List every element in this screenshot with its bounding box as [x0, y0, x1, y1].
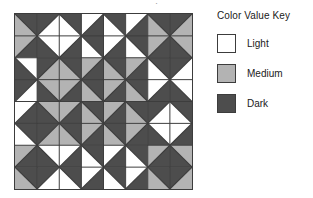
legend-item-dark: Dark	[217, 94, 313, 113]
quilt-grid	[14, 13, 193, 190]
quilt-pattern-figure: · Color Value Key Light Medium Dark	[0, 0, 313, 198]
quilt-svg-canvas	[15, 14, 192, 189]
legend-label-dark: Dark	[247, 98, 268, 109]
legend-swatch-light	[217, 34, 236, 53]
legend-label-light: Light	[247, 38, 269, 49]
legend-swatch-medium	[217, 64, 236, 83]
cropped-title-text: ·	[0, 0, 313, 6]
legend-item-light: Light	[217, 34, 313, 53]
legend: Color Value Key Light Medium Dark	[217, 10, 313, 124]
legend-swatch-dark	[217, 94, 236, 113]
legend-label-medium: Medium	[247, 68, 283, 79]
legend-title: Color Value Key	[217, 10, 313, 21]
legend-item-medium: Medium	[217, 64, 313, 83]
